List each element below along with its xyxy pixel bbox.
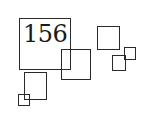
square-small-lower-left (18, 94, 30, 106)
square-number-label: 156 (23, 22, 67, 46)
square-medium-center (61, 49, 91, 80)
squares-figure: 156 (0, 0, 146, 116)
square-small-right-upper (124, 47, 136, 60)
square-medium-right (97, 26, 120, 50)
